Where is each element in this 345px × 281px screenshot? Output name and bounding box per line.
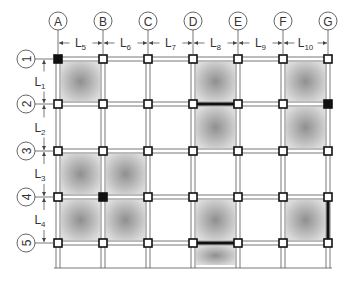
shaded-panel [196, 246, 235, 265]
column-axis-label: A [54, 15, 62, 29]
shaded-panel [196, 200, 235, 240]
column-node [54, 239, 62, 247]
column-node [234, 239, 242, 247]
column-node [324, 147, 332, 155]
column-node [54, 100, 62, 108]
column-node [279, 193, 287, 201]
column-node [279, 147, 287, 155]
column-node [234, 100, 242, 108]
column-axis-label: B [99, 15, 107, 29]
column-node [99, 100, 107, 108]
row-axis-label: 1 [20, 55, 34, 62]
column-node-solid [54, 55, 62, 63]
column-node [324, 239, 332, 247]
row-axis-label: 2 [20, 100, 34, 107]
row-axis-label: 5 [20, 239, 34, 246]
span-label: L10 [298, 36, 314, 52]
span-label: L8 [210, 36, 222, 52]
column-node [189, 193, 197, 201]
shaded-panel [196, 62, 235, 101]
column-node [99, 147, 107, 155]
column-node [234, 55, 242, 63]
column-node [99, 55, 107, 63]
column-node [324, 55, 332, 63]
column-node-solid [324, 100, 332, 108]
column-node [234, 147, 242, 155]
shaded-panel [61, 62, 100, 101]
column-node [54, 193, 62, 201]
shaded-panel [286, 107, 325, 148]
column-node [279, 55, 287, 63]
column-node [99, 239, 107, 247]
column-node [234, 193, 242, 201]
column-node [189, 147, 197, 155]
column-axis-label: F [279, 15, 286, 29]
column-node [279, 239, 287, 247]
column-node [54, 147, 62, 155]
span-label: L5 [75, 36, 87, 52]
shaded-panel [106, 154, 145, 194]
shaded-panel [61, 154, 100, 194]
row-axis-label: 4 [20, 193, 34, 200]
shaded-panel [61, 200, 100, 240]
shaded-panel [286, 200, 325, 240]
column-node [279, 100, 287, 108]
span-label: L6 [120, 36, 132, 52]
column-axis-label: C [144, 15, 153, 29]
column-axis-label: G [323, 15, 332, 29]
span-label: L4 [34, 213, 46, 229]
span-label: L3 [34, 167, 46, 183]
column-node [189, 239, 197, 247]
column-node [144, 193, 152, 201]
shaded-panel [106, 200, 145, 240]
row-axis-label: 3 [20, 147, 34, 154]
column-axis-labels: ABCDEFG [49, 12, 337, 55]
column-node [144, 239, 152, 247]
span-label: L2 [34, 121, 46, 137]
column-node-solid [99, 193, 107, 201]
shaded-panel [286, 62, 325, 101]
span-label: L7 [165, 36, 177, 52]
column-node [144, 147, 152, 155]
span-label: L9 [255, 36, 267, 52]
column-node [144, 55, 152, 63]
column-node [189, 100, 197, 108]
column-axis-label: D [189, 15, 198, 29]
column-node [189, 55, 197, 63]
column-axis-label: E [234, 15, 242, 29]
span-label: L1 [34, 75, 46, 91]
structural-grid-plan: ABCDEFG 12345 L5L6L7L8L9L10L1L2L3L4 [0, 0, 345, 281]
column-node [144, 100, 152, 108]
column-node [324, 193, 332, 201]
shaded-panel [196, 107, 235, 148]
